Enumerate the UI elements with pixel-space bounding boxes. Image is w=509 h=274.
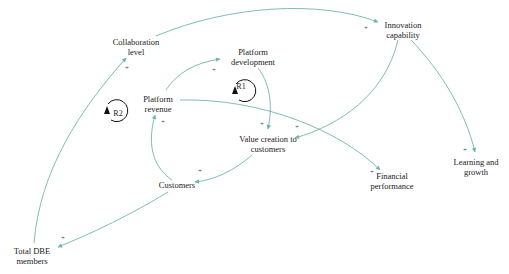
node-platform-revenue: Platform revenue — [143, 94, 173, 114]
node-total-dbe-members: Total DBE members — [14, 246, 50, 266]
node-financial-performance: Financial performance — [371, 171, 414, 191]
polarity-value-customers: + — [198, 167, 202, 175]
polarity-dbe-collaboration: + — [125, 64, 129, 72]
polarity-innovation-value: + — [295, 123, 299, 131]
causal-loop-diagram: Collaboration level Platform development… — [0, 0, 509, 274]
loop-label-r1: R1 — [236, 82, 245, 91]
polarity-collaboration-innovation: + — [364, 24, 368, 32]
polarity-development-value: + — [260, 120, 264, 128]
node-learning-and-growth: Learning and growth — [453, 157, 498, 177]
link-innovation-to-value — [295, 40, 398, 138]
node-platform-development: Platform development — [231, 47, 275, 67]
polarity-innovation-learning: + — [463, 146, 467, 154]
polarity-customers-revenue: + — [161, 118, 165, 126]
link-customers-to-dbe — [58, 192, 168, 247]
link-value-to-customers — [195, 155, 252, 182]
polarity-revenue-financial: + — [370, 168, 374, 176]
polarity-revenue-development: + — [212, 66, 216, 74]
polarity-customers-dbe: + — [61, 234, 65, 242]
node-value-creation: Value creation to customers — [239, 134, 297, 154]
link-dbe-to-collaboration — [34, 58, 126, 243]
node-collaboration-level: Collaboration level — [113, 37, 160, 57]
loop-label-r2: R2 — [113, 109, 122, 118]
link-innovation-to-learning — [411, 40, 475, 152]
node-customers: Customers — [159, 180, 195, 190]
node-innovation-capability: Innovation capability — [385, 20, 422, 40]
link-collaboration-to-innovation — [156, 8, 378, 36]
link-revenue-to-development — [166, 59, 220, 90]
